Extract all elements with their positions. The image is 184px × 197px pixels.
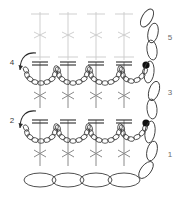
- chain-stitch: [138, 7, 157, 29]
- arrow-curve-icon: [20, 111, 36, 128]
- row-label-3: 3: [168, 88, 173, 97]
- row2-posts: [34, 120, 130, 166]
- row4-stitches: [22, 62, 148, 108]
- chain-arc: [55, 123, 91, 143]
- chain-stitch: [80, 173, 112, 187]
- chain-stitch: [108, 173, 140, 187]
- row2-stitches: [22, 120, 148, 166]
- row-label-1: 1: [168, 150, 173, 159]
- chain-arc: [22, 123, 59, 143]
- chain-stitch: [146, 99, 158, 120]
- foundation-chain: [24, 173, 140, 187]
- row2-chain-arcs: [22, 123, 148, 143]
- row4-posts: [34, 62, 130, 108]
- chain-stitch: [24, 173, 56, 187]
- direction-marker-4: 4: [10, 58, 15, 67]
- chain-stitch: [145, 140, 160, 162]
- chart-canvas: 4 2 5 3 1: [0, 0, 184, 197]
- arrow-head-icon: [19, 123, 24, 128]
- right-turning-chain: [136, 7, 162, 181]
- treble-stitch-faded: [87, 12, 105, 60]
- chain-arc: [87, 123, 123, 143]
- chain-arc: [119, 124, 149, 142]
- row-label-5: 5: [168, 33, 173, 42]
- row5-faded-stitches: [30, 12, 134, 60]
- row4-crossbars: [32, 62, 132, 65]
- chain-arc: [55, 65, 91, 85]
- treble-stitch-faded: [115, 12, 133, 60]
- chain-arc: [22, 65, 59, 85]
- direction-marker-2: 2: [10, 116, 15, 125]
- arrow-head-icon: [19, 65, 24, 70]
- crochet-chart-diagram: 4 2 5 3 1: [0, 0, 184, 197]
- arrow-curve-icon: [20, 53, 36, 70]
- chain-arc: [87, 65, 123, 85]
- treble-stitch-faded: [59, 12, 77, 60]
- row2-crossbars: [32, 120, 132, 123]
- row4-chain-arcs: [22, 65, 148, 85]
- chain-stitch: [52, 173, 84, 187]
